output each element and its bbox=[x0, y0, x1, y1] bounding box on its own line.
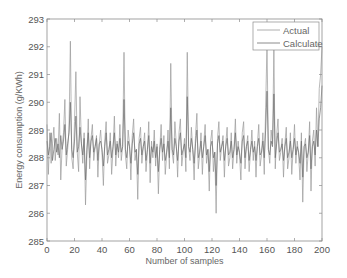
x-tick-label: 100 bbox=[177, 244, 193, 255]
x-tick-label: 0 bbox=[44, 244, 49, 255]
y-tick-label: 293 bbox=[28, 14, 44, 25]
y-axis-label: Energy consumption (g/KWh) bbox=[14, 71, 24, 189]
y-tick-label: 289 bbox=[28, 125, 44, 136]
x-tick-label: 180 bbox=[287, 244, 303, 255]
x-tick-label: 60 bbox=[124, 244, 135, 255]
legend-label-calculate: Calculate bbox=[283, 38, 323, 49]
y-tick-label: 291 bbox=[28, 69, 44, 80]
y-tick-label: 286 bbox=[28, 208, 44, 219]
y-tick-label: 287 bbox=[28, 180, 44, 191]
x-tick-label: 200 bbox=[314, 244, 330, 255]
y-tick-label: 292 bbox=[28, 41, 44, 52]
x-axis-label: Number of samples bbox=[145, 256, 224, 266]
legend-label-actual: Actual bbox=[283, 25, 309, 36]
y-tick-label: 290 bbox=[28, 97, 44, 108]
line-chart: 020406080100120140160180200 285286287288… bbox=[0, 0, 347, 278]
x-tick-label: 160 bbox=[259, 244, 275, 255]
x-tick-label: 120 bbox=[204, 244, 220, 255]
legend: Actual Calculate bbox=[253, 22, 323, 50]
y-tick-label: 285 bbox=[28, 236, 44, 247]
x-tick-label: 40 bbox=[97, 244, 108, 255]
x-tick-label: 140 bbox=[232, 244, 248, 255]
x-tick-label: 80 bbox=[152, 244, 163, 255]
x-tick-label: 20 bbox=[69, 244, 80, 255]
y-tick-label: 288 bbox=[28, 152, 44, 163]
